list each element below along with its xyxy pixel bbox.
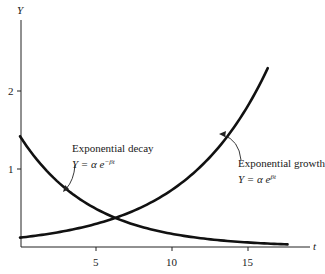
x-tick-label-5: 5 <box>93 256 99 268</box>
x-tick-label-10: 10 <box>166 256 177 268</box>
x-ticks <box>96 247 248 251</box>
decay-formula-base: Y = α e <box>72 158 104 170</box>
y-axis-label: Y <box>17 4 23 16</box>
growth-arrow <box>219 131 241 160</box>
decay-annotation-formula: Y = α e−βt <box>72 156 115 170</box>
x-axis-label: t <box>313 240 316 252</box>
decay-formula-exponent: −βt <box>104 158 114 166</box>
y-tick-label-1: 1 <box>8 163 14 175</box>
growth-formula-exponent: βt <box>270 173 275 181</box>
decay-annotation-title: Exponential decay <box>72 142 154 154</box>
x-tick-label-15: 15 <box>242 256 253 268</box>
chart-canvas <box>0 0 325 274</box>
y-ticks <box>17 91 21 169</box>
growth-annotation-formula: Y = α eβt <box>238 171 276 185</box>
growth-annotation-title: Exponential growth <box>238 157 325 169</box>
y-tick-label-2: 2 <box>8 85 14 97</box>
growth-formula-base: Y = α e <box>238 173 270 185</box>
